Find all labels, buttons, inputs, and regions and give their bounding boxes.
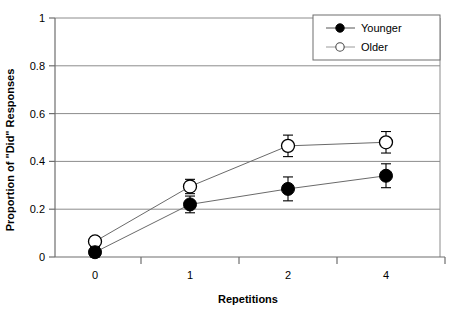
y-tick-label-0.4: 0.4 — [30, 155, 45, 167]
y-tick-label-0.2: 0.2 — [30, 203, 45, 215]
filled-circle-icon[interactable] — [184, 198, 197, 211]
open-circle-icon[interactable] — [282, 139, 295, 152]
open-circle-icon — [336, 43, 344, 51]
filled-circle-icon[interactable] — [282, 182, 295, 195]
x-axis-ticks — [141, 257, 445, 264]
filled-circle-icon — [336, 24, 344, 32]
x-axis-title: Repetitions — [218, 293, 278, 305]
y-tick-label-0: 0 — [39, 251, 45, 263]
chart-container: 1 0.8 0.6 0.4 0.2 0 0 1 2 4 Repetitions … — [0, 0, 451, 318]
filled-circle-icon[interactable] — [89, 246, 102, 259]
filled-circle-icon[interactable] — [380, 169, 393, 182]
x-tick-label-2: 2 — [285, 269, 291, 281]
x-tick-label-0: 0 — [92, 269, 98, 281]
x-tick-label-1: 1 — [187, 269, 193, 281]
x-tick-label-4: 4 — [383, 269, 389, 281]
legend[interactable]: Younger Older — [313, 15, 440, 60]
y-tick-label-0.8: 0.8 — [30, 60, 45, 72]
legend-label-younger: Younger — [361, 22, 402, 34]
y-axis-ticks — [49, 18, 55, 257]
legend-label-older: Older — [361, 41, 388, 53]
y-axis-title: Proportion of "Did" Responses — [4, 69, 16, 232]
y-tick-label-0.6: 0.6 — [30, 108, 45, 120]
y-tick-label-1: 1 — [39, 12, 45, 24]
open-circle-icon[interactable] — [380, 136, 393, 149]
open-circle-icon[interactable] — [184, 180, 197, 193]
line-chart: 1 0.8 0.6 0.4 0.2 0 0 1 2 4 Repetitions … — [0, 0, 451, 318]
